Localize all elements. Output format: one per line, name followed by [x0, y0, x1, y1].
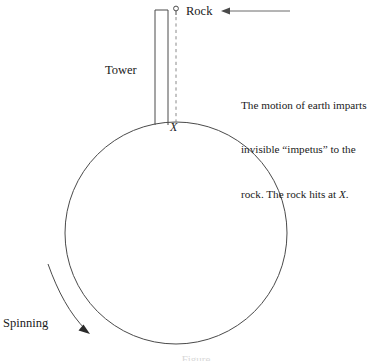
note-line-2: invisible “impetus” to the	[241, 142, 389, 157]
figure-caption: Figure	[0, 352, 392, 361]
rock-pointer-arrow-head	[221, 8, 230, 15]
figure-diagram: Rock Tower X Spinning earth The motion o…	[0, 0, 392, 361]
rock-marker-icon	[174, 6, 179, 11]
spinning-earth-label: Spinning earth	[3, 286, 48, 361]
explanatory-note: The motion of earth imparts invisible “i…	[241, 68, 389, 232]
note-line-3-prefix: rock. The rock hits at	[241, 188, 339, 200]
note-line-3-suffix: .	[346, 188, 349, 200]
impact-point-label: X	[170, 120, 177, 136]
note-line-1: The motion of earth imparts	[241, 98, 389, 113]
note-line-3: rock. The rock hits at X.	[241, 187, 389, 202]
spinning-earth-line-1: Spinning	[3, 316, 48, 331]
note-impact-point: X	[339, 188, 346, 200]
tower-label: Tower	[105, 62, 137, 79]
spin-direction-arrow-curve	[48, 264, 86, 330]
spin-direction-arrow-head	[79, 325, 91, 335]
rock-label: Rock	[186, 3, 212, 20]
tower-shape	[155, 10, 168, 125]
